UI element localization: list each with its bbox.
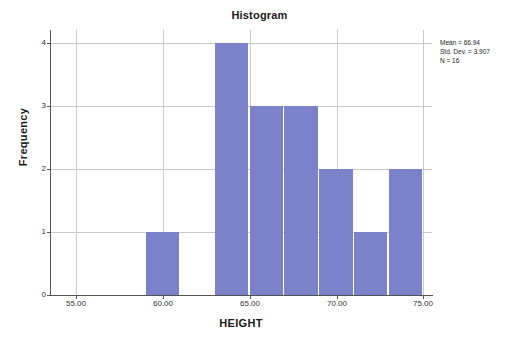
histogram-bar — [319, 169, 353, 295]
statistics-line: N = 16 — [440, 56, 490, 65]
histogram-bar — [284, 106, 318, 295]
y-tick-mark — [47, 295, 50, 296]
gridline-vertical — [76, 30, 77, 295]
y-axis-line — [50, 30, 51, 296]
x-tick-label: 55.00 — [53, 299, 99, 308]
y-tick-mark — [47, 43, 50, 44]
gridline-vertical — [423, 30, 424, 295]
y-tick-mark — [47, 169, 50, 170]
statistics-line: Mean = 66.94 — [440, 38, 490, 47]
statistics-annotation: Mean = 66.94Std. Dev. = 3.907N = 16 — [440, 38, 490, 66]
histogram-bar — [250, 106, 284, 295]
x-tick-label: 70.00 — [314, 299, 360, 308]
x-tick-label: 60.00 — [140, 299, 186, 308]
histogram-bar — [215, 43, 249, 295]
histogram-chart: Histogram 01234 55.0060.0065.0070.0075.0… — [0, 0, 519, 345]
x-axis-title: HEIGHT — [50, 317, 432, 329]
y-tick-label: 1 — [22, 227, 46, 236]
histogram-bar — [389, 169, 423, 295]
y-tick-label: 4 — [22, 38, 46, 47]
y-axis-title: Frequency — [17, 82, 29, 192]
histogram-bar — [146, 232, 180, 295]
x-tick-label: 65.00 — [227, 299, 273, 308]
y-tick-mark — [47, 232, 50, 233]
chart-title: Histogram — [0, 9, 519, 21]
x-axis-line — [50, 295, 433, 296]
y-tick-label: 0 — [22, 290, 46, 299]
y-tick-mark — [47, 106, 50, 107]
x-tick-label: 75.00 — [400, 299, 446, 308]
statistics-line: Std. Dev. = 3.907 — [440, 47, 490, 56]
histogram-bar — [354, 232, 388, 295]
